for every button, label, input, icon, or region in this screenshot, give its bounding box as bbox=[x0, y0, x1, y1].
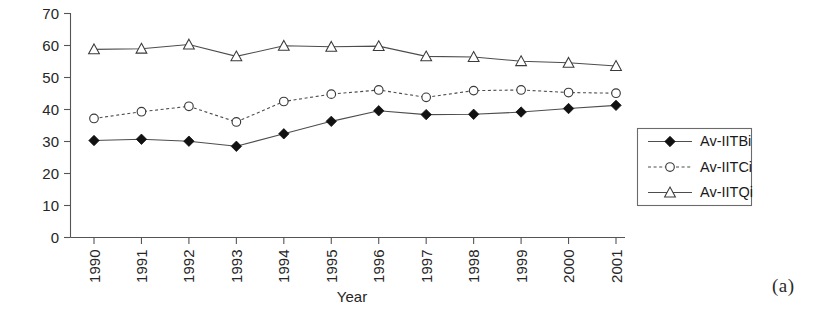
panel-caption: (a) bbox=[772, 275, 795, 297]
y-tick-label: 70 bbox=[42, 5, 59, 22]
y-tick-label: 0 bbox=[51, 229, 59, 246]
x-tick-label: 1991 bbox=[133, 250, 150, 283]
marker-open-circle-icon bbox=[666, 163, 675, 172]
x-tick-label: 1999 bbox=[513, 250, 530, 283]
y-tick-label: 10 bbox=[42, 197, 59, 214]
marker-open-circle-icon bbox=[232, 118, 241, 127]
marker-open-circle-icon bbox=[90, 114, 99, 123]
legend-entry-label: Av-IITBi bbox=[700, 133, 751, 149]
marker-open-circle-icon bbox=[374, 86, 383, 95]
x-tick-label: 1994 bbox=[275, 250, 292, 283]
figure-panel: 010203040506070 199019911992199319941995… bbox=[0, 0, 828, 328]
y-tick-label: 20 bbox=[42, 165, 59, 182]
x-tick-label: 1995 bbox=[323, 250, 340, 283]
y-tick-label: 40 bbox=[42, 101, 59, 118]
x-tick-label: 1997 bbox=[418, 250, 435, 283]
marker-open-circle-icon bbox=[517, 86, 526, 95]
marker-open-circle-icon bbox=[137, 107, 146, 116]
legend-entry-label: Av-IITCi bbox=[700, 159, 752, 175]
marker-open-circle-icon bbox=[422, 93, 431, 102]
chart-legend: Av-IITBiAv-IITCiAv-IITQi bbox=[638, 129, 753, 206]
y-tick-label: 30 bbox=[42, 133, 59, 150]
marker-open-circle-icon bbox=[564, 88, 573, 97]
x-tick-label: 1992 bbox=[180, 250, 197, 283]
marker-open-circle-icon bbox=[327, 90, 336, 99]
marker-open-circle-icon bbox=[469, 86, 478, 95]
legend-entry-label: Av-IITQi bbox=[700, 184, 753, 200]
y-tick-label: 60 bbox=[42, 37, 59, 54]
x-tick-label: 1996 bbox=[370, 250, 387, 283]
x-tick-label: 1993 bbox=[228, 250, 245, 283]
line-chart: 010203040506070 199019911992199319941995… bbox=[0, 0, 828, 328]
x-tick-label: 2001 bbox=[608, 250, 625, 283]
x-tick-label: 1990 bbox=[86, 250, 103, 283]
x-axis-title: Year bbox=[337, 288, 367, 305]
y-tick-label: 50 bbox=[42, 69, 59, 86]
marker-open-circle-icon bbox=[612, 89, 621, 98]
x-tick-label: 2000 bbox=[560, 250, 577, 283]
marker-open-circle-icon bbox=[185, 102, 194, 111]
x-tick-label: 1998 bbox=[465, 250, 482, 283]
marker-open-circle-icon bbox=[280, 97, 289, 106]
